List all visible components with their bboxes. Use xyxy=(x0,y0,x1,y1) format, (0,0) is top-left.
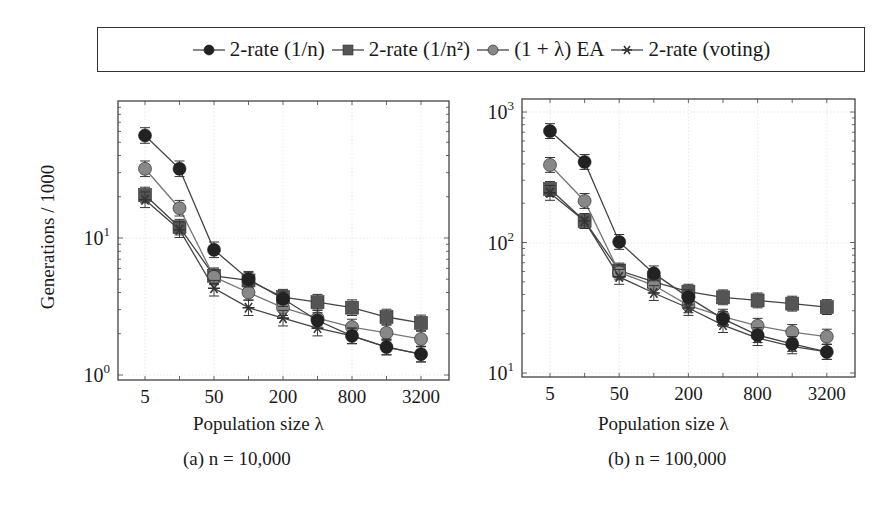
data-point xyxy=(647,267,660,280)
y-tick-label: 102 xyxy=(488,229,515,254)
data-point xyxy=(346,329,359,342)
y-tick-label: 103 xyxy=(488,98,515,123)
data-point xyxy=(544,125,557,138)
x-tick-label: 50 xyxy=(205,386,224,407)
x-tick-label: 200 xyxy=(269,386,298,407)
data-point xyxy=(751,294,764,307)
plot-panel-a: 1001015502008003200 xyxy=(84,101,450,407)
data-point xyxy=(139,162,152,175)
data-point xyxy=(346,301,359,314)
caption-a: (a) n = 10,000 xyxy=(183,448,291,470)
x-tick-label: 5 xyxy=(545,383,555,404)
data-point xyxy=(380,326,393,339)
x-axis-title-b: Population size λ xyxy=(598,413,729,435)
data-point xyxy=(311,314,324,327)
x-tick-label: 3200 xyxy=(808,383,846,404)
plot-frame xyxy=(118,101,449,380)
x-tick-label: 200 xyxy=(674,383,703,404)
y-tick-label: 100 xyxy=(84,361,111,386)
caption-b: (b) n = 100,000 xyxy=(608,448,726,470)
data-point xyxy=(544,158,557,171)
data-point xyxy=(242,286,255,299)
y-tick-label: 101 xyxy=(84,224,111,249)
data-point xyxy=(820,330,833,343)
data-point xyxy=(415,348,428,361)
x-tick-label: 5 xyxy=(140,386,150,407)
data-point xyxy=(242,273,255,286)
x-tick-label: 800 xyxy=(743,383,772,404)
data-point xyxy=(208,243,221,256)
x-tick-label: 3200 xyxy=(402,386,440,407)
data-point xyxy=(139,129,152,142)
data-point xyxy=(786,297,799,310)
figure: 1001015502008003200101102103550200800320… xyxy=(0,0,884,506)
data-point xyxy=(786,337,799,350)
y-axis-title-a: Generations / 1000 xyxy=(37,125,59,350)
data-point xyxy=(682,291,695,304)
data-point xyxy=(380,341,393,354)
x-tick-label: 800 xyxy=(338,386,367,407)
data-point xyxy=(311,296,324,309)
data-point xyxy=(173,162,186,175)
data-point xyxy=(415,316,428,329)
data-point xyxy=(277,292,290,305)
x-axis-title-a: Population size λ xyxy=(193,413,324,435)
data-point xyxy=(380,311,393,324)
data-point xyxy=(173,202,186,215)
y-tick-label: 101 xyxy=(488,359,515,384)
plot-frame xyxy=(522,99,855,377)
data-point xyxy=(613,235,626,248)
data-point xyxy=(415,333,428,346)
data-point xyxy=(820,345,833,358)
series-line xyxy=(550,131,827,352)
x-tick-label: 50 xyxy=(610,383,629,404)
data-point xyxy=(820,301,833,314)
data-point xyxy=(717,291,730,304)
data-point xyxy=(717,312,730,325)
data-point xyxy=(578,194,591,207)
data-point xyxy=(578,155,591,168)
plot-panel-b: 1011021035502008003200 xyxy=(488,98,856,404)
data-point xyxy=(751,329,764,342)
